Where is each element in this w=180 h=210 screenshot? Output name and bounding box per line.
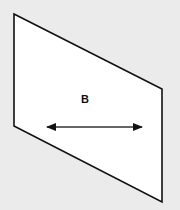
parallelogram-panel	[14, 14, 162, 202]
diagram-canvas: B	[0, 0, 180, 210]
panel-label: B	[81, 93, 89, 105]
